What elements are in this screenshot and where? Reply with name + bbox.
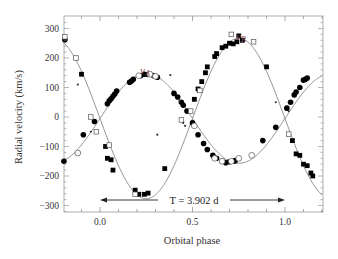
point-filled-square: [205, 64, 210, 69]
point-filled-circle: [195, 132, 201, 138]
point-filled-circle: [273, 125, 279, 131]
y-tick-label: 200: [45, 53, 60, 63]
point-filled-circle: [260, 138, 266, 144]
point-filled-circle: [205, 147, 211, 153]
model-curve: [64, 74, 322, 164]
point-small-dot: [182, 122, 184, 124]
point-open-square: [94, 129, 99, 134]
point-open-square: [198, 88, 203, 93]
point-small-dot: [178, 100, 180, 102]
x-tick-label: 0.0: [94, 217, 106, 227]
point-filled-square: [192, 97, 197, 102]
point-filled-circle: [293, 89, 299, 95]
point-filled-square: [162, 166, 167, 171]
point-open-circle: [153, 73, 159, 79]
curve-label-va: vA: [140, 64, 150, 78]
point-filled-circle: [201, 141, 207, 147]
point-filled-square: [199, 79, 204, 84]
point-filled-square: [297, 153, 302, 158]
point-filled-circle: [81, 132, 87, 138]
point-small-dot: [77, 83, 79, 85]
x-tick-label: 0.5: [187, 217, 199, 227]
point-filled-square: [264, 64, 269, 69]
point-open-square: [179, 118, 184, 123]
y-tick-label: 0: [54, 112, 59, 122]
point-open-circle: [249, 152, 255, 158]
y-tick-label: −100: [39, 142, 59, 152]
point-filled-square: [305, 163, 310, 168]
point-open-square: [133, 192, 138, 197]
point-small-dot: [288, 110, 290, 112]
point-small-dot: [275, 101, 277, 103]
y-tick-label: 300: [45, 24, 60, 34]
period-arrow: T = 3.902 d: [100, 195, 285, 206]
point-open-square: [286, 132, 291, 137]
point-filled-circle: [114, 88, 120, 94]
point-open-circle: [191, 123, 197, 129]
point-filled-square: [109, 157, 114, 162]
point-open-square: [251, 39, 256, 44]
point-open-square: [107, 143, 112, 148]
point-small-dot: [90, 131, 92, 133]
y-tick-label: −300: [39, 201, 59, 211]
point-filled-square: [290, 138, 295, 143]
point-filled-circle: [297, 85, 303, 91]
point-open-circle: [236, 155, 242, 161]
point-open-square: [229, 32, 234, 37]
y-tick-label: −200: [39, 171, 59, 181]
curve-label-vb: vB: [236, 30, 246, 44]
point-filled-circle: [131, 76, 137, 82]
point-filled-square: [146, 191, 151, 196]
y-tick-label: 100: [45, 83, 60, 93]
radial-velocity-chart: 0.00.51.03002001000−100−200−300 Orbital …: [0, 0, 338, 259]
point-small-dot: [169, 74, 171, 76]
point-filled-circle: [180, 102, 186, 108]
point-filled-square: [111, 168, 116, 173]
point-open-square: [188, 109, 193, 114]
point-filled-circle: [61, 158, 67, 164]
tick-labels: 0.00.51.03002001000−100−200−300: [39, 24, 291, 227]
point-filled-circle: [304, 75, 310, 81]
point-filled-circle: [175, 94, 181, 100]
point-open-square: [88, 115, 93, 120]
period-label: T = 3.902 d: [170, 195, 220, 206]
point-open-circle: [219, 158, 225, 164]
point-open-circle: [228, 158, 234, 164]
point-filled-circle: [288, 99, 294, 105]
point-filled-square: [310, 174, 315, 179]
x-tick-label: 1.0: [279, 217, 291, 227]
point-open-circle: [75, 150, 81, 156]
point-small-dot: [184, 125, 186, 127]
point-filled-square: [203, 70, 208, 75]
point-open-square: [63, 34, 68, 39]
point-filled-square: [79, 72, 84, 77]
data-points: [61, 32, 315, 197]
y-axis-title: Radial velocity (km/s): [13, 70, 25, 164]
point-open-square: [74, 56, 79, 61]
point-small-dot: [156, 134, 158, 136]
point-open-circle: [212, 155, 218, 161]
model-curves: [64, 38, 322, 198]
point-filled-square: [214, 51, 219, 56]
x-axis-title: Orbital phase: [164, 235, 221, 246]
